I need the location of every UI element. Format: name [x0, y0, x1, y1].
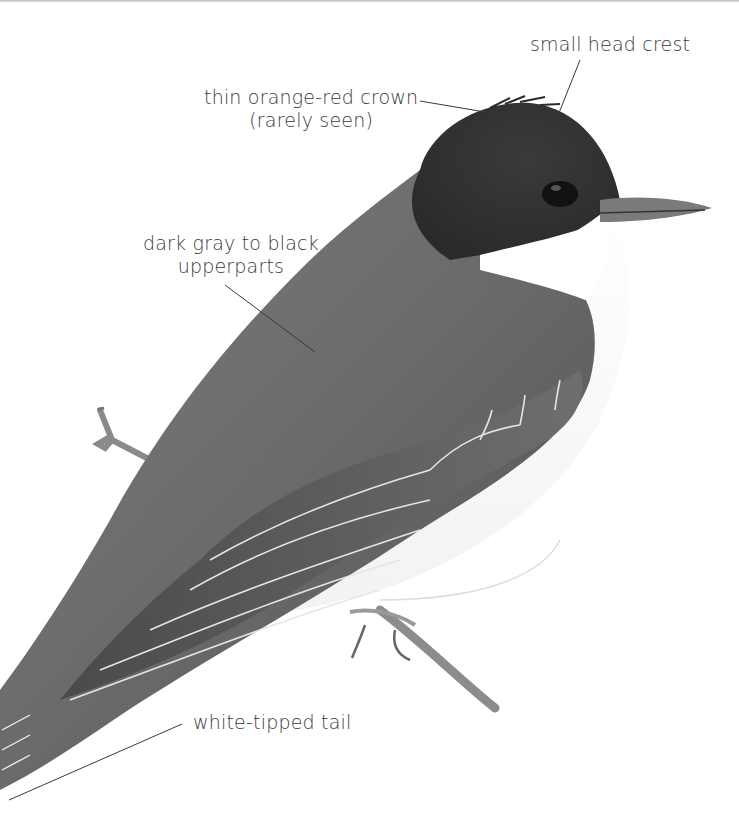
- perch-twig: [350, 610, 495, 708]
- annotation-text: (rarely seen): [204, 109, 418, 132]
- leader-line-crown: [420, 101, 485, 112]
- annotation-text: small head crest: [530, 33, 690, 56]
- leader-line-crest: [557, 60, 580, 118]
- annotation-text: dark gray to black: [143, 232, 319, 255]
- annotation-upperparts: dark gray to black upperparts: [143, 232, 319, 278]
- annotation-orange-red-crown: thin orange-red crown (rarely seen): [204, 86, 418, 132]
- annotation-text: upperparts: [143, 255, 319, 278]
- annotation-text: thin orange-red crown: [204, 86, 418, 109]
- eye: [542, 181, 578, 207]
- annotation-white-tipped-tail: white-tipped tail: [193, 711, 352, 734]
- bird-illustration-figure: small head crest thin orange-red crown (…: [0, 0, 739, 818]
- annotation-text: white-tipped tail: [193, 711, 352, 734]
- annotation-small-head-crest: small head crest: [530, 33, 690, 56]
